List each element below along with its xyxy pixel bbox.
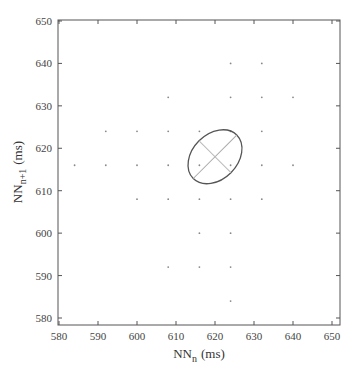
- data-point: [261, 130, 263, 132]
- x-tick-labels: 580590600610620630640650: [51, 330, 341, 342]
- data-point: [230, 96, 232, 98]
- data-point: [136, 130, 138, 132]
- y-tick-label: 650: [36, 15, 53, 27]
- data-point: [230, 164, 232, 166]
- data-point: [74, 164, 76, 166]
- y-tick-label: 630: [36, 100, 53, 112]
- data-point: [230, 198, 232, 200]
- data-point: [167, 130, 169, 132]
- y-tick-label: 590: [36, 270, 53, 282]
- data-point: [167, 96, 169, 98]
- data-point: [136, 198, 138, 200]
- y-tick-label: 610: [36, 185, 53, 197]
- data-point: [199, 232, 201, 234]
- data-point: [136, 164, 138, 166]
- y-axis-label: NNn+1(ms): [10, 141, 28, 203]
- x-axis-label: NNn(ms): [173, 346, 225, 364]
- data-point: [167, 266, 169, 268]
- x-tick-label: 650: [324, 330, 341, 342]
- data-point: [230, 63, 232, 65]
- data-point: [261, 96, 263, 98]
- y-tick-label: 580: [36, 312, 53, 324]
- data-point: [261, 164, 263, 166]
- poincare-plot: 580590600610620630640650 580590600610620…: [0, 0, 358, 378]
- data-point: [105, 130, 107, 132]
- data-point: [199, 266, 201, 268]
- data-point: [167, 198, 169, 200]
- y-tick-label: 640: [36, 57, 53, 69]
- x-tick-label: 640: [285, 330, 302, 342]
- x-tick-label: 620: [207, 330, 224, 342]
- x-tick-label: 590: [90, 330, 107, 342]
- y-tick-labels: 580590600610620630640650: [36, 15, 53, 324]
- data-point: [199, 164, 201, 166]
- x-tick-label: 630: [246, 330, 263, 342]
- x-tick-label: 610: [168, 330, 185, 342]
- data-point: [199, 198, 201, 200]
- data-point: [230, 266, 232, 268]
- y-tick-label: 600: [36, 227, 53, 239]
- data-point: [230, 232, 232, 234]
- y-tick-label: 620: [36, 142, 53, 154]
- data-point: [261, 63, 263, 65]
- data-point: [199, 130, 201, 132]
- data-point: [261, 198, 263, 200]
- data-point: [167, 164, 169, 166]
- x-tick-label: 580: [51, 330, 68, 342]
- data-point: [230, 300, 232, 302]
- x-tick-label: 600: [129, 330, 146, 342]
- data-point: [105, 164, 107, 166]
- data-point: [292, 96, 294, 98]
- data-point: [292, 164, 294, 166]
